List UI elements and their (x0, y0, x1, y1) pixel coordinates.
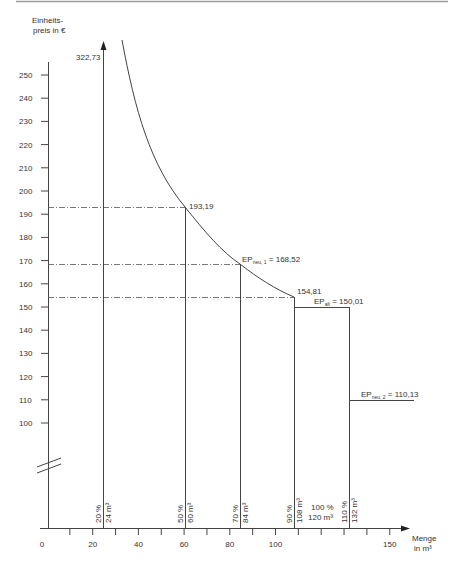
x-tick-label: 100 (269, 540, 283, 549)
arrow-up-icon (101, 41, 107, 50)
value-label-322: 322,73 (76, 53, 101, 62)
ep-neu2-label: EPneu, 2 = 110,13 (361, 390, 419, 400)
y-tick-label: 240 (19, 94, 33, 103)
y-tick-label: 110 (19, 396, 32, 405)
marker-label: 84 m³ (241, 502, 250, 523)
marker-label: 90 % (285, 505, 294, 523)
marker-label: 132 m³ (350, 498, 359, 523)
unit-price-chart: Einheits- preis in € 2502402302202102001… (0, 0, 451, 565)
marker-label: 20 % (94, 505, 103, 523)
x-tick-label: 40 (134, 540, 143, 549)
y-tick-label: 120 (19, 373, 33, 382)
marker-label: 70 % (231, 505, 240, 523)
y-tick-label: 150 (19, 303, 33, 312)
x-tick-label: 60 (180, 540, 189, 549)
x-axis (40, 526, 410, 532)
marker-label: 50 % (176, 505, 185, 523)
x-tick-label: 0 (40, 540, 45, 549)
x-axis-title-line2: in m³ (414, 544, 432, 553)
x-tick-label: 80 (225, 540, 234, 549)
y-tick-label: 250 (19, 71, 33, 80)
y-axis-title-line2: preis in € (33, 26, 66, 35)
y-tick-label: 140 (19, 326, 33, 335)
y-tick-label: 210 (19, 164, 33, 173)
y-tick-label: 200 (19, 187, 33, 196)
y-tick-label: 170 (19, 257, 33, 266)
ep-alt-label: EPalt = 150,01 (314, 297, 364, 307)
y-axis-title-line1: Einheits- (32, 16, 63, 25)
x-tick-label: 20 (88, 540, 97, 549)
y-tick-label: 130 (19, 349, 33, 358)
value-label-193: 193,19 (189, 202, 214, 211)
y-axis-ticks: 2502402302202102001901801701601501401301… (19, 71, 48, 428)
x-tick-label: 150 (383, 540, 397, 549)
y-tick-label: 190 (19, 210, 33, 219)
marker-label: 60 m³ (186, 502, 195, 523)
x-axis-arrow-icon (401, 526, 410, 532)
ep-neu1-label: EPneu, 1 = 168,52 (242, 255, 301, 265)
y-tick-label: 230 (19, 117, 33, 126)
marker-label: 24 m³ (104, 502, 113, 523)
x-axis-ticks: 020406080100150 (40, 528, 397, 549)
y-tick-label: 180 (19, 233, 33, 242)
y-tick-label: 160 (19, 280, 33, 289)
value-label-154: 154,81 (297, 287, 322, 296)
mid-pct-label: 100 % (311, 503, 334, 512)
x-axis-title-line1: Menge (412, 534, 437, 543)
reference-lines (48, 208, 294, 298)
marker-label: 110 % (340, 501, 349, 523)
marker-label: 108 m³ (295, 498, 304, 523)
y-tick-label: 220 (19, 141, 33, 150)
y-tick-label: 100 (19, 419, 33, 428)
mid-qty-label: 120 m³ (308, 513, 333, 522)
